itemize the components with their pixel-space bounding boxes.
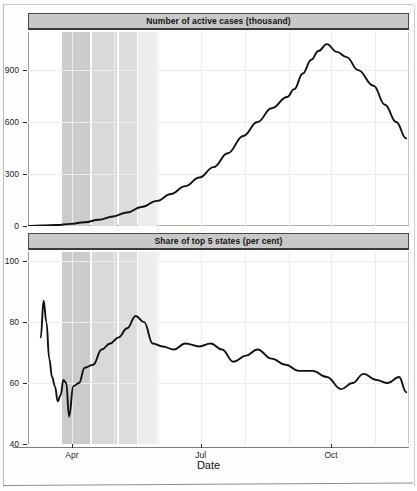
x-tick-mark: [331, 444, 332, 448]
panel-top5-share: Share of top 5 states (per cent) 4060801…: [28, 233, 409, 444]
page-border-right: [414, 4, 415, 486]
x-tick-mark: [72, 444, 73, 448]
plot-area-top5-share: [28, 252, 409, 444]
y-tick-label: 100: [5, 256, 19, 266]
y-tick-mark: [23, 70, 27, 71]
y-tick-label: 80: [10, 317, 19, 327]
strip-header-top5-share: Share of top 5 states (per cent): [28, 233, 409, 250]
data-line: [41, 301, 406, 417]
panel-active-cases: Number of active cases (thousand) 030060…: [28, 13, 409, 226]
data-line: [28, 44, 406, 226]
y-tick-mark: [23, 383, 27, 384]
y-tick-label: 0: [14, 221, 19, 231]
series-line-active-cases: [28, 32, 409, 226]
y-tick-mark: [23, 226, 27, 227]
y-tick-label: 600: [5, 117, 19, 127]
y-tick-mark: [23, 122, 27, 123]
y-tick-mark: [23, 444, 27, 445]
y-tick-label: 900: [5, 65, 19, 75]
y-tick-label: 300: [5, 169, 19, 179]
strip-label-top5-share: Share of top 5 states (per cent): [155, 236, 283, 246]
page-border-top: [3, 4, 413, 5]
plot-area-active-cases: [28, 32, 409, 226]
y-tick-mark: [23, 322, 27, 323]
page-border-left: [3, 4, 4, 487]
x-axis-title: Date: [0, 459, 417, 471]
y-tick-mark: [23, 261, 27, 262]
figure-panel-chart: Number of active cases (thousand) 030060…: [0, 0, 417, 491]
y-tick-label: 60: [10, 378, 19, 388]
y-tick-mark: [23, 174, 27, 175]
strip-header-active-cases: Number of active cases (thousand): [28, 13, 409, 30]
strip-label-active-cases: Number of active cases (thousand): [146, 16, 291, 26]
page-border-bottom: [4, 483, 413, 486]
x-tick-mark: [201, 444, 202, 448]
series-line-top5-share: [28, 252, 409, 444]
